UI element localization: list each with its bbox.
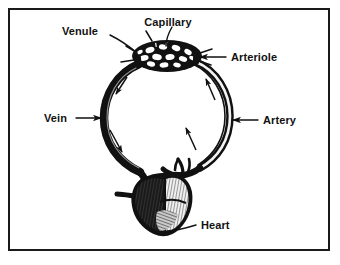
label-capillary: Capillary	[144, 16, 192, 28]
label-heart: Heart	[201, 219, 230, 231]
diagram-canvas: Venule Capillary Arteriole Vein Artery H…	[0, 0, 340, 265]
leader-venule	[110, 35, 137, 53]
blood-flow-arrows	[110, 77, 215, 152]
label-vein: Vein	[44, 112, 67, 124]
artery-vessel	[193, 62, 230, 168]
label-venule: Venule	[62, 25, 98, 37]
label-artery: Artery	[263, 114, 297, 126]
label-arteriole: Arteriole	[231, 51, 277, 63]
circulation-diagram-figure: Venule Capillary Arteriole Vein Artery H…	[0, 0, 340, 265]
vein-vessel	[104, 64, 140, 172]
